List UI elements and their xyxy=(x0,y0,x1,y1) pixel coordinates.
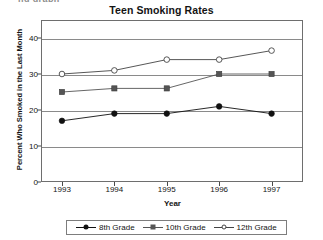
data-point xyxy=(59,118,65,124)
legend-marker-icon xyxy=(143,223,163,232)
data-point xyxy=(112,111,118,117)
legend-label: 8th Grade xyxy=(99,223,135,232)
chart-figure: ng graph Teen Smoking Rates Percent Who … xyxy=(0,0,323,240)
data-point xyxy=(164,57,170,63)
x-tick-label: 1993 xyxy=(42,185,82,194)
y-tick-label: 20 xyxy=(8,106,38,115)
legend-label: 10th Grade xyxy=(166,223,206,232)
series-12th-grade xyxy=(59,48,274,77)
y-tick-label: 10 xyxy=(8,142,38,151)
x-tick-mark xyxy=(62,182,63,186)
data-point xyxy=(269,111,275,117)
chart-legend: 8th Grade10th Grade12th Grade xyxy=(66,220,287,235)
data-point xyxy=(112,68,118,74)
y-tick-label: 0 xyxy=(8,178,38,187)
y-tick-label: 30 xyxy=(8,70,38,79)
x-tick-label: 1994 xyxy=(94,185,134,194)
x-tick-mark xyxy=(219,182,220,186)
data-point xyxy=(59,89,64,94)
x-axis-title: Year xyxy=(40,199,305,208)
x-tick-label: 1995 xyxy=(147,185,187,194)
legend-entry-8th-grade[interactable]: 8th Grade xyxy=(76,223,135,232)
data-point xyxy=(269,71,274,76)
clipped-header-text: ng graph xyxy=(18,0,138,2)
x-tick-mark xyxy=(114,182,115,186)
data-point xyxy=(164,111,170,117)
data-point xyxy=(269,48,275,54)
data-point xyxy=(164,86,169,91)
x-tick-mark xyxy=(272,182,273,186)
legend-marker-icon xyxy=(76,223,96,232)
legend-marker-icon xyxy=(214,223,234,232)
series-layer xyxy=(41,20,303,182)
data-point xyxy=(112,86,117,91)
legend-label: 12th Grade xyxy=(237,223,277,232)
x-tick-mark xyxy=(167,182,168,186)
data-point xyxy=(59,71,65,77)
x-tick-label: 1996 xyxy=(199,185,239,194)
x-tick-label: 1997 xyxy=(252,185,292,194)
series-8th-grade xyxy=(59,104,274,124)
series-10th-grade xyxy=(59,71,274,94)
legend-entry-12th-grade[interactable]: 12th Grade xyxy=(214,223,277,232)
data-point xyxy=(217,71,222,76)
data-point xyxy=(216,104,222,110)
data-point xyxy=(216,57,222,63)
y-tick-label: 40 xyxy=(8,34,38,43)
legend-entry-10th-grade[interactable]: 10th Grade xyxy=(143,223,206,232)
chart-title: Teen Smoking Rates xyxy=(0,4,323,16)
